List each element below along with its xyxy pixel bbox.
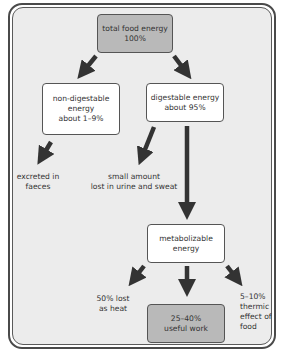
thermic-line2: thermic (240, 302, 276, 312)
total-food-energy-label: total food energy (102, 24, 167, 34)
non-digestable-line1: non-digestable (53, 94, 110, 104)
arrow-icon (42, 142, 51, 157)
non-digestable-percent: about 1–9% (59, 114, 104, 124)
digestable-percent: about 95% (164, 103, 205, 113)
arrow-icon (134, 266, 144, 279)
total-food-energy-box: total food energy 100% (97, 14, 173, 53)
excreted-in-faeces-label: excreted in faeces (14, 172, 62, 192)
heat-line2: as heat (92, 304, 134, 314)
useful-work-box: 25–40% useful work (147, 304, 225, 343)
thermic-line3: effect of (240, 312, 276, 322)
arrow-icon (142, 127, 154, 157)
non-digestable-energy-box: non-digestable energy about 1–9% (42, 83, 120, 135)
metabolizable-line1: metabolizable (159, 234, 213, 244)
excreted-line1: excreted in (14, 172, 62, 182)
thermic-effect-label: 5–10% thermic effect of food (240, 292, 276, 332)
urine-sweat-line1: small amount (86, 172, 182, 182)
digestable-energy-box: digestable energy about 95% (146, 83, 224, 122)
arrow-icon (83, 56, 96, 72)
metabolizable-energy-box: metabolizable energy (147, 224, 225, 263)
urine-sweat-label: small amount lost in urine and sweat (86, 172, 182, 192)
thermic-percent: 5–10% (240, 292, 276, 302)
useful-work-label: useful work (164, 324, 208, 334)
heat-line1: 50% lost (92, 294, 134, 304)
urine-sweat-line2: lost in urine and sweat (86, 182, 182, 192)
heat-loss-label: 50% lost as heat (92, 294, 134, 314)
non-digestable-line2: energy (68, 104, 94, 114)
metabolizable-line2: energy (173, 244, 199, 254)
useful-work-percent: 25–40% (171, 314, 201, 324)
total-food-energy-percent: 100% (124, 34, 146, 44)
excreted-line2: faeces (14, 182, 62, 192)
arrow-icon (227, 266, 237, 279)
thermic-line4: food (240, 322, 276, 332)
arrow-icon (174, 56, 186, 72)
digestable-label: digestable energy (151, 93, 220, 103)
